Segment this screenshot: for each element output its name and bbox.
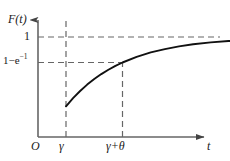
y-tick-label-one: 1 [24,30,30,42]
figure-container: F(t) 1 1−e−1 O γ γ+θ t [0,0,230,161]
origin-label: O [31,140,40,152]
x-axis-label: t [207,140,210,152]
y-axis-label: F(t) [8,13,27,25]
y-tick-base: 1−e [3,54,20,66]
x-tick-label-gamma: γ [59,140,64,152]
figure-canvas [0,0,230,161]
x-tick-label-gamma-theta: γ+θ [106,140,125,152]
y-tick-exponent: −1 [20,52,28,61]
cdf-curve [66,38,230,106]
y-axis-label-arg: (t) [15,12,26,26]
y-tick-label-one-minus-exp: 1−e−1 [3,55,28,66]
